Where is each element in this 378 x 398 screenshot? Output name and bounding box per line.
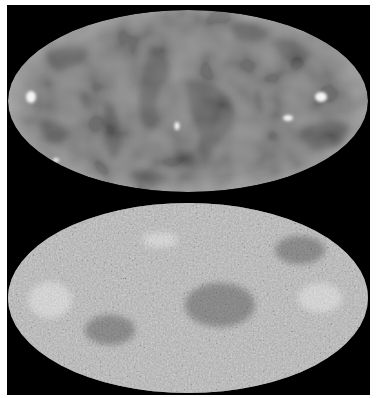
sky-maps xyxy=(0,0,378,398)
bottom-sky-map xyxy=(8,203,368,393)
top-sky-map xyxy=(8,10,368,193)
